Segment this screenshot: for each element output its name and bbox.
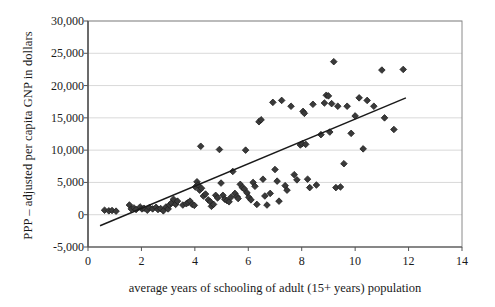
data-point	[278, 97, 285, 104]
data-point	[330, 58, 337, 65]
plot-frame	[88, 21, 462, 247]
plot-border	[88, 21, 462, 247]
axis-ticks	[84, 21, 462, 251]
data-point	[218, 180, 225, 187]
data-point	[364, 97, 371, 104]
gridlines	[88, 21, 462, 247]
data-point	[306, 184, 313, 191]
data-point	[381, 115, 388, 122]
trend-line-segment	[100, 98, 406, 226]
data-point	[360, 146, 367, 153]
plot-area	[0, 0, 495, 307]
data-point	[356, 95, 363, 102]
data-point	[242, 147, 249, 154]
data-point	[328, 100, 335, 107]
data-point	[341, 160, 348, 167]
data-point	[337, 184, 344, 191]
data-point	[371, 103, 378, 110]
data-point	[270, 99, 277, 106]
data-point	[264, 202, 271, 209]
data-point	[379, 67, 386, 74]
scatter-chart: PPP – adjusted per capita GNP in dollars…	[0, 0, 495, 307]
data-point	[400, 66, 407, 73]
data-point	[276, 198, 283, 205]
data-point	[348, 130, 355, 137]
data-point	[310, 101, 317, 108]
data-point	[344, 103, 351, 110]
data-point	[391, 126, 398, 133]
data-point	[321, 100, 328, 107]
data-point	[216, 146, 223, 153]
data-point	[197, 143, 204, 150]
data-point	[288, 103, 295, 110]
data-point	[334, 103, 341, 110]
trend-line	[100, 98, 406, 226]
data-point	[254, 201, 261, 208]
data-points	[101, 58, 406, 214]
data-point	[304, 176, 311, 183]
data-point	[274, 178, 281, 185]
data-point	[260, 176, 267, 183]
data-point	[272, 166, 279, 173]
